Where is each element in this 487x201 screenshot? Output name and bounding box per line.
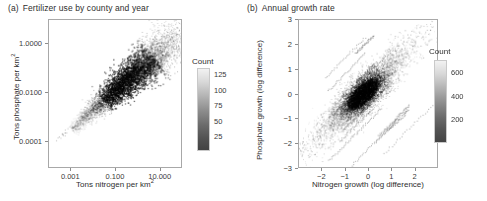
panel-b-y-tick-mark-6	[295, 168, 298, 169]
panel-b-x-axis-title: Nitrogen growth (log difference)	[312, 180, 424, 189]
panel-b-x-tick-mark-1	[345, 168, 346, 171]
panel-a: (a)Fertilizer use by county and year 0.0…	[0, 0, 243, 201]
panel-b-legend-colorbar	[434, 60, 447, 143]
panel-a-y-tick-mark-1	[45, 92, 48, 93]
panel-a-y-tick-label-0: 1.0000	[6, 39, 42, 48]
panel-a-x-axis-title-text: Tons nitrogen per km	[76, 180, 151, 189]
panel-a-x-tick-mark-2	[160, 168, 161, 171]
panel-a-y-tick-mark-0	[45, 43, 48, 44]
panel-b-x-tick-mark-4	[415, 168, 416, 171]
panel-b-legend-title: Count	[429, 47, 450, 56]
panel-b-y-tick-mark-2	[295, 69, 298, 70]
panel-a-x-tick-mark-1	[115, 168, 116, 171]
panel-b-x-tick-mark-2	[368, 168, 369, 171]
panel-b-legend-tick-label-1: 400	[451, 91, 464, 100]
panel-b-scatter-points	[299, 20, 437, 167]
panel-b-legend-tick-label-2: 200	[451, 115, 464, 124]
panel-a-scatter-points	[49, 20, 181, 167]
panel-a-x-axis-title: Tons nitrogen per km2	[76, 180, 154, 189]
panel-b-y-tick-label-0: 3	[256, 15, 292, 24]
panel-b-y-tick-mark-0	[295, 19, 298, 20]
panel-b-x-tick-mark-3	[391, 168, 392, 171]
panel-b-y-tick-mark-4	[295, 118, 298, 119]
panel-b-title-text: Annual growth rate	[262, 3, 335, 13]
panel-a-title: (a)Fertilizer use by county and year	[8, 3, 149, 13]
panel-b-x-tick-mark-0	[321, 168, 322, 171]
panel-b-tag: (b)	[247, 3, 258, 13]
panel-a-plot-area	[48, 19, 182, 168]
panel-a-y-tick-mark-2	[45, 141, 48, 142]
panel-a-legend-tick-label-2: 75	[214, 101, 222, 110]
panel-a-title-text: Fertilizer use by county and year	[23, 3, 149, 13]
panel-b-title: (b)Annual growth rate	[247, 3, 335, 13]
panel-b-y-tick-mark-5	[295, 143, 298, 144]
panel-b-y-tick-mark-3	[295, 94, 298, 95]
panel-a-legend-colorbar	[197, 68, 210, 151]
panel-a-tag: (a)	[8, 3, 19, 13]
panel-a-x-tick-mark-0	[70, 168, 71, 171]
panel-a-legend-title: Count	[192, 57, 213, 66]
panel-b-y-tick-mark-1	[295, 44, 298, 45]
panel-a-y-axis-title-sup: 2	[10, 54, 16, 57]
panel-b-plot-area	[298, 19, 438, 168]
panel-a-legend-tick-label-0: 125	[214, 70, 227, 79]
panel-a-y-axis-title-text: Tons phosphate per km	[12, 57, 21, 140]
panel-a-y-axis-title: Tons phosphate per km2	[12, 54, 21, 140]
panel-a-legend-tick-label-4: 25	[214, 132, 222, 141]
panel-a-legend-tick-label-1: 100	[214, 85, 227, 94]
panel-b-y-tick-label-6: −3	[256, 164, 292, 173]
panel-b-y-axis-title: Phosphate growth (log difference)	[255, 40, 264, 160]
panel-b-legend-tick-label-0: 600	[451, 67, 464, 76]
panel-a-legend-tick-label-3: 50	[214, 116, 222, 125]
panel-b: (b)Annual growth rate −2−10123210−1−2−3 …	[243, 0, 487, 201]
panel-a-x-axis-title-sup: 2	[151, 178, 154, 184]
